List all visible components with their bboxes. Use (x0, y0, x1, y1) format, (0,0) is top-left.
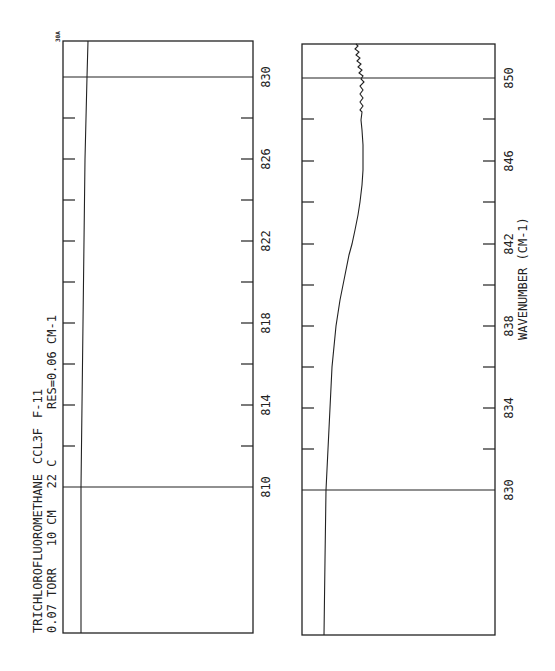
tick-814: 814 (259, 394, 273, 416)
panel-2: 850 846 842 838 834 830 WAVENUMBER (CM-1… (302, 44, 530, 635)
tick-830: 830 (259, 66, 273, 88)
resolution: RES=0.06 CM-1 (45, 315, 59, 409)
compound-name: TRICHLOROFLUOROMETHANECCL3FF-11 (31, 389, 45, 633)
tick-826: 826 (259, 148, 273, 170)
spectrum-figure: 830 826 822 818 814 810 30A TRICHLOROFLU… (0, 0, 555, 671)
panel-2-trace (324, 44, 364, 635)
conditions: 0.07 TORR 10 CM 22 C (45, 460, 59, 633)
panel-1-trace (81, 41, 88, 633)
tick-834: 834 (502, 397, 516, 419)
tick-830b: 830 (502, 479, 516, 501)
panel-1-frame (63, 41, 253, 633)
panel-2-frame (302, 44, 495, 635)
tick-818: 818 (259, 312, 273, 334)
tick-838: 838 (502, 315, 516, 337)
panel-1-ticks (63, 118, 253, 446)
tick-846: 846 (502, 150, 516, 172)
panel-1-tick-labels: 830 826 822 818 814 810 (259, 66, 273, 498)
tick-810: 810 (259, 476, 273, 498)
x-axis-label: WAVENUMBER (CM-1) (516, 217, 530, 340)
page-id: 30A (54, 31, 61, 42)
tick-842: 842 (502, 233, 516, 255)
tick-850: 850 (502, 67, 516, 89)
panel-2-tick-labels: 850 846 842 838 834 830 (502, 67, 516, 501)
tick-822: 822 (259, 230, 273, 252)
panel-1: 830 826 822 818 814 810 (63, 41, 273, 633)
header-text: TRICHLOROFLUOROMETHANECCL3FF-11 0.07 TOR… (31, 315, 59, 633)
